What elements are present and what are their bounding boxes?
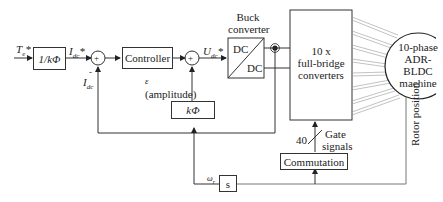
kphi-block: kΦ (171, 101, 215, 119)
idc-label: Idc (83, 76, 93, 93)
sum2-plus: + (188, 52, 193, 64)
udc-ref-label: Udc* (203, 45, 223, 62)
rotor-position-label: Rotor position (409, 66, 421, 146)
buck-converter-title: Buck converter (228, 11, 268, 35)
sum1-plus: + (94, 52, 99, 64)
epsilon-label: ε (145, 75, 149, 87)
gate-signals-label: Gate signals (322, 128, 353, 152)
full-bridge-block-label: 10 x full-bridge converters (290, 45, 352, 81)
buck-dc-bottom: DC (247, 62, 262, 74)
idc-ref-label: Idc* (69, 45, 85, 62)
gate-count-label: 40 (296, 134, 307, 146)
amplitude-label: (amplitude) (145, 88, 196, 100)
torque-ref-label: Te* (16, 43, 31, 60)
derivative-block: s (219, 175, 237, 192)
omega-label: ωr (207, 173, 215, 188)
controller-block: Controller (122, 47, 173, 69)
commutation-block: Commutation (280, 153, 348, 170)
buck-dc-top: DC (233, 43, 248, 55)
inverse-kphi-block: 1/kΦ (33, 47, 66, 70)
